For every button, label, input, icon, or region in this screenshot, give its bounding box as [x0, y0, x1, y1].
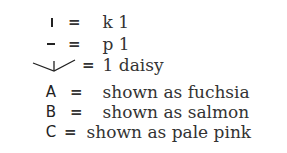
- purl-stitch-icon: [45, 43, 57, 45]
- equals-sign: =: [82, 56, 95, 74]
- equals-sign: =: [70, 103, 83, 121]
- legend-row-purl: = p 1: [45, 34, 130, 54]
- equals-sign: =: [70, 83, 83, 101]
- legend-row-b: B = shown as salmon: [44, 102, 249, 122]
- legend-row-knit: = k 1: [47, 12, 129, 32]
- legend-text: shown as pale pink: [87, 122, 252, 142]
- legend-text: shown as salmon: [103, 102, 250, 122]
- legend-text: p 1: [103, 34, 130, 54]
- legend-text: 1 daisy: [103, 55, 164, 75]
- equals-sign: =: [68, 35, 81, 53]
- equals-sign: =: [68, 13, 81, 31]
- letter-b-icon: B: [44, 103, 58, 121]
- legend-row-c: C = shown as pale pink: [44, 122, 251, 142]
- legend-row-daisy: = 1 daisy: [32, 55, 164, 75]
- legend-text: shown as fuchsia: [103, 82, 250, 102]
- knit-stitch-icon: [47, 18, 57, 27]
- letter-c-icon: C: [44, 123, 58, 141]
- legend-row-a: A = shown as fuchsia: [44, 82, 250, 102]
- letter-a-icon: A: [44, 83, 58, 101]
- equals-sign: =: [64, 123, 77, 141]
- daisy-stitch-icon: [32, 55, 78, 75]
- legend-text: k 1: [103, 12, 130, 32]
